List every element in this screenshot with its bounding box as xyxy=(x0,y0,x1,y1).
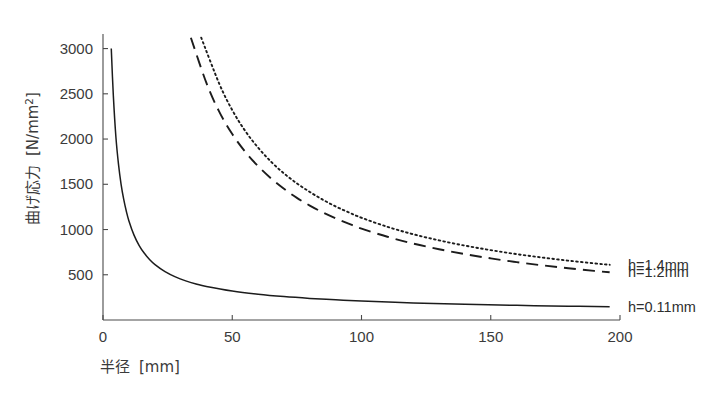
x-tick-label: 0 xyxy=(99,328,107,345)
y-axis-title-unit-open: [N/mm xyxy=(24,105,42,156)
y-tick-label: 500 xyxy=(68,266,93,283)
y-tick-label: 2500 xyxy=(60,85,93,102)
y-axis-title: 曲げ応力[N/mm2] xyxy=(23,92,42,225)
data-series-group xyxy=(111,38,609,307)
series-labels-group: h=1.4mmh=1.2mmh=0.11mm xyxy=(628,257,696,315)
x-tick-label: 50 xyxy=(224,328,241,345)
svg-text:曲げ応力[N/mm2]: 曲げ応力[N/mm2] xyxy=(23,92,42,225)
x-axis-tickmarks xyxy=(103,315,620,320)
y-axis-title-unit-exponent: 2 xyxy=(23,98,35,105)
y-axis-tickmarks xyxy=(103,49,108,275)
curve-h-1-2mm xyxy=(191,38,610,273)
svg-text:半径[mm]: 半径[mm] xyxy=(100,358,180,376)
x-tick-label: 100 xyxy=(349,328,374,345)
y-tick-label: 3000 xyxy=(60,40,93,57)
y-tick-label: 1000 xyxy=(60,221,93,238)
series-label-h-1-2mm: h=1.2mm xyxy=(628,264,689,280)
curve-h-1-4mm xyxy=(201,38,609,265)
x-axis-tick-labels: 050100150200 xyxy=(99,328,633,345)
series-label-h-0-11mm: h=0.11mm xyxy=(628,299,696,315)
y-axis-title-unit-close: ] xyxy=(24,92,42,98)
chart-canvas: 50010001500200025003000 050100150200 h=1… xyxy=(0,0,711,406)
x-tick-label: 200 xyxy=(607,328,632,345)
y-tick-label: 1500 xyxy=(60,175,93,192)
chart-figure: 50010001500200025003000 050100150200 h=1… xyxy=(0,0,711,406)
y-axis-tick-labels: 50010001500200025003000 xyxy=(60,40,93,283)
x-axis-title: 半径[mm] xyxy=(100,358,180,376)
x-tick-label: 150 xyxy=(478,328,503,345)
x-axis-title-main: 半径 xyxy=(100,358,130,376)
x-axis-title-unit: [mm] xyxy=(139,358,180,376)
y-tick-label: 2000 xyxy=(60,130,93,147)
curve-h-0-11mm xyxy=(111,49,609,307)
y-axis-title-main: 曲げ応力 xyxy=(24,165,42,225)
